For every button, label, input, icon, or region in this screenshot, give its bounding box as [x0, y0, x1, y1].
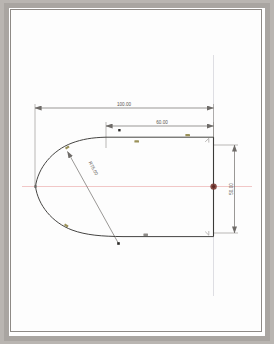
screenshot-root: 100.00 60.00 50.00 R75.00: [0, 0, 274, 344]
overall-length-label[interactable]: 100.00: [117, 102, 131, 107]
dimension-group[interactable]: 100.00 60.00 50.00 R75.00: [35, 102, 238, 244]
selected-midpoint-core: [212, 185, 215, 188]
arc-radius-dimension[interactable]: R75.00: [68, 152, 119, 244]
horizontal-marker-top-1[interactable]: [134, 140, 139, 142]
horizontal-marker-top-2[interactable]: [185, 134, 190, 136]
radius-label[interactable]: R75.00: [88, 161, 100, 177]
cad-drawing-canvas[interactable]: 100.00 60.00 50.00 R75.00: [0, 0, 274, 344]
coincident-marker-top-right[interactable]: [205, 138, 209, 142]
body-length-label[interactable]: 60.00: [156, 120, 168, 125]
upper-nose-arc[interactable]: [36, 137, 107, 186]
overall-length-dimension[interactable]: 100.00: [35, 102, 214, 189]
arc-center-point-upper[interactable]: [118, 129, 120, 131]
body-length-dimension[interactable]: 60.00: [106, 120, 214, 149]
horizontal-marker-bottom-1[interactable]: [143, 234, 148, 236]
arc-center-point-lower[interactable]: [117, 242, 120, 245]
nose-apex-point[interactable]: [34, 185, 36, 187]
coincident-marker-bottom-right[interactable]: [205, 231, 209, 235]
height-label[interactable]: 50.00: [229, 183, 234, 195]
lower-nose-arc[interactable]: [36, 187, 124, 237]
height-dimension[interactable]: 50.00: [214, 145, 238, 233]
